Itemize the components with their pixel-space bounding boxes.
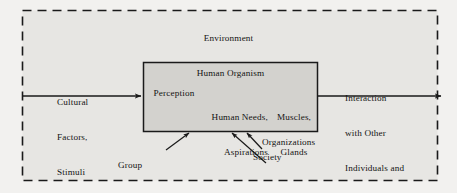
output-label-line-2: with Other [345,128,404,140]
output-label-line-3: Individuals and [345,163,404,175]
diagram-canvas: Environment Human Organism Perception Hu… [0,0,457,193]
human-needs-label: Human Needs, Aspirations [196,88,268,182]
input-label-line-3: Stimuli [57,167,88,179]
perception-label: Perception [146,88,202,100]
society-label: Society [253,152,282,164]
input-label-line-2: Factors, [57,132,88,144]
muscles-glands-line-1: Muscles, [272,112,316,124]
group-influences-line-1: Group [118,160,158,172]
human-needs-line-1: Human Needs, [196,112,268,124]
muscles-glands-label: Muscles, Glands [272,88,316,182]
group-influences-label: Group Influences [118,136,158,193]
human-organism-title: Human Organism [143,68,318,80]
output-label-line-1: Interaction [345,93,404,105]
environment-label: Environment [0,33,457,45]
input-label: Cultural Factors, Stimuli [57,73,88,193]
output-label: Interaction with Other Individuals and i… [345,69,404,193]
input-label-line-1: Cultural [57,97,88,109]
organizations-label: Organizations [262,137,315,149]
